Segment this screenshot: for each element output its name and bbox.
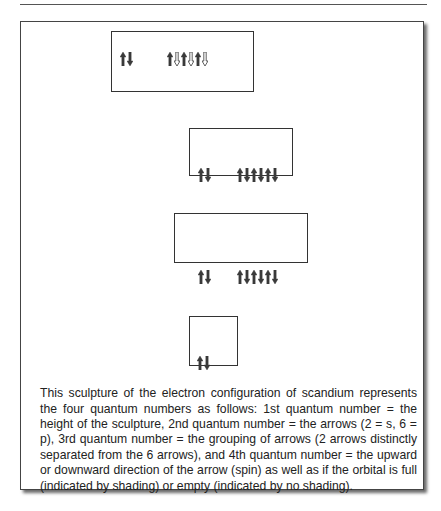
up-arrow-filled-icon xyxy=(197,356,203,370)
up-arrow-filled-icon xyxy=(251,168,257,182)
s-arrows-level-4 xyxy=(197,356,211,370)
s-arrows-level-1 xyxy=(120,52,134,66)
figure-caption: This sculpture of the electron configura… xyxy=(40,386,417,494)
down-arrow-empty-icon xyxy=(174,52,180,66)
up-arrow-filled-icon xyxy=(198,270,204,284)
down-arrow-filled-icon xyxy=(127,52,133,66)
down-arrow-filled-icon xyxy=(204,356,210,370)
up-arrow-filled-icon xyxy=(181,52,187,66)
up-arrow-filled-icon xyxy=(251,270,257,284)
down-arrow-empty-icon xyxy=(202,52,208,66)
down-arrow-filled-icon xyxy=(244,270,250,284)
down-arrow-filled-icon xyxy=(258,168,264,182)
down-arrow-filled-icon xyxy=(272,168,278,182)
down-arrow-empty-icon xyxy=(188,52,194,66)
up-arrow-filled-icon xyxy=(120,52,126,66)
down-arrow-filled-icon xyxy=(258,270,264,284)
up-arrow-filled-icon xyxy=(265,270,271,284)
down-arrow-filled-icon xyxy=(272,270,278,284)
down-arrow-filled-icon xyxy=(205,270,211,284)
up-arrow-filled-icon xyxy=(237,270,243,284)
p-arrows-level-1 xyxy=(167,52,209,66)
up-arrow-filled-icon xyxy=(237,168,243,182)
down-arrow-filled-icon xyxy=(244,168,250,182)
up-arrow-filled-icon xyxy=(265,168,271,182)
up-arrow-filled-icon xyxy=(195,52,201,66)
sculpture-box-level-3 xyxy=(174,213,308,263)
s-arrows-level-3 xyxy=(198,270,212,284)
s-arrows-level-2 xyxy=(198,168,212,182)
down-arrow-filled-icon xyxy=(205,168,211,182)
up-arrow-filled-icon xyxy=(167,52,173,66)
p-arrows-level-2 xyxy=(237,168,279,182)
top-rule xyxy=(20,4,427,5)
p-arrows-level-3 xyxy=(237,270,279,284)
up-arrow-filled-icon xyxy=(198,168,204,182)
